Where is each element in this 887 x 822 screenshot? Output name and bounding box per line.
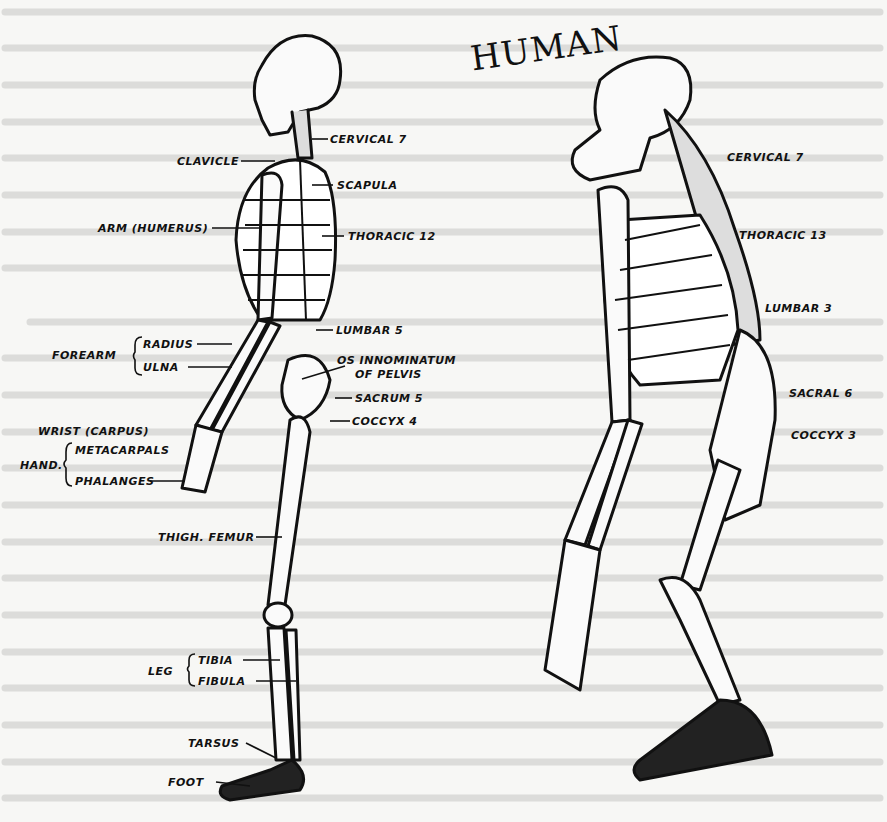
label-human-femur: THIGH. FEMUR [158, 532, 254, 543]
label-human-phalanges: PHALANGES [75, 476, 154, 487]
label-human-pelvis-line1: OS INNOMINATUM [337, 355, 456, 366]
label-human-wrist: WRIST (CARPUS) [38, 426, 149, 437]
label-leader-lines [0, 0, 887, 822]
label-human-tarsus: TARSUS [188, 738, 239, 749]
label-human-tibia: TIBIA [198, 655, 233, 666]
label-human-humerus: ARM (HUMERUS) [98, 223, 208, 234]
label-human-metacarpals: METACARPALS [75, 445, 169, 456]
label-human-hand: HAND. [20, 460, 63, 471]
label-human-ulna: ULNA [143, 362, 179, 373]
label-human-foot: FOOT [168, 777, 204, 788]
label-gorilla-sacral: SACRAL 6 [789, 388, 853, 399]
label-human-clavicle: CLAVICLE [177, 156, 239, 167]
label-human-radius: RADIUS [143, 339, 193, 350]
label-human-lumbar: LUMBAR 5 [336, 325, 403, 336]
label-human-forearm: FOREARM [52, 350, 116, 361]
label-human-pelvis-line2: OF PELVIS [355, 369, 422, 380]
diagram-page: HUMAN [0, 0, 887, 822]
label-human-cervical: CERVICAL 7 [330, 134, 407, 145]
label-gorilla-thoracic: THORACIC 13 [739, 230, 827, 241]
label-human-thoracic: THORACIC 12 [348, 231, 436, 242]
label-human-leg: LEG [148, 666, 173, 677]
label-gorilla-cervical: CERVICAL 7 [727, 152, 804, 163]
label-human-fibula: FIBULA [198, 676, 245, 687]
label-gorilla-coccyx: COCCYX 3 [791, 430, 857, 441]
label-human-scapula: SCAPULA [337, 180, 398, 191]
label-human-coccyx: COCCYX 4 [352, 416, 418, 427]
label-gorilla-lumbar: LUMBAR 3 [765, 303, 832, 314]
label-human-sacrum: SACRUM 5 [355, 393, 423, 404]
